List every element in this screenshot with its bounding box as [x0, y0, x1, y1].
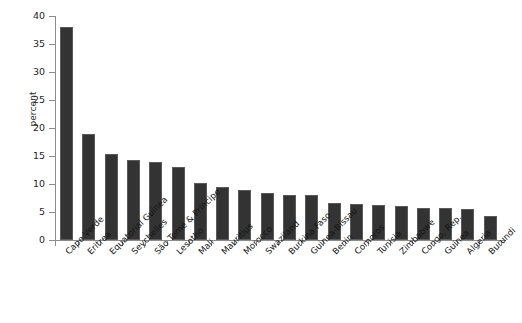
y-axis-tick: [49, 212, 56, 213]
x-axis-tick: [55, 241, 56, 246]
y-axis-tick: [49, 72, 56, 73]
y-axis-tick-label: 20: [17, 123, 45, 133]
y-axis-tick: [49, 44, 56, 45]
y-axis-tick-label: 10: [17, 179, 45, 189]
y-axis-tick-label: 30: [17, 67, 45, 77]
y-axis-tick: [49, 128, 56, 129]
y-axis-tick: [49, 184, 56, 185]
y-axis-tick-label: 35: [17, 39, 45, 49]
bar: [105, 154, 118, 240]
y-axis-tick: [49, 100, 56, 101]
bar: [60, 27, 73, 240]
y-axis-tick-label: 25: [17, 95, 45, 105]
y-axis-tick-label: 15: [17, 151, 45, 161]
y-axis-tick-label: 40: [17, 11, 45, 21]
bar-chart: percent 0510152025303540 Cape VerdeEritr…: [0, 0, 522, 323]
y-axis-tick-label: 5: [17, 207, 45, 217]
y-axis-tick-label: 0: [17, 235, 45, 245]
y-axis-tick: [49, 156, 56, 157]
y-axis-tick: [49, 16, 56, 17]
